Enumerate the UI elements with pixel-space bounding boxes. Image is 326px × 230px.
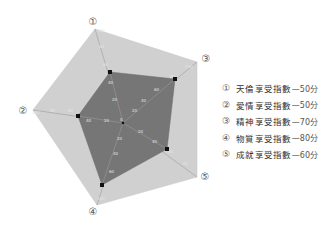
- legend-item: ④ 物質享受指數 —80分: [222, 130, 318, 147]
- legend: ① 天倫享受指數 —50分 ② 愛情享受指數 —50分 ③ 精神享受指數 —70…: [222, 80, 318, 163]
- legend-item: ⑤ 成就享受指數 —60分: [222, 146, 318, 163]
- svg-text:③: ③: [202, 53, 211, 64]
- svg-text:20: 20: [138, 129, 144, 134]
- svg-text:100: 100: [97, 28, 105, 33]
- legend-number: ③: [222, 116, 236, 126]
- svg-text:80: 80: [50, 108, 56, 113]
- svg-text:40: 40: [113, 151, 119, 156]
- svg-text:80: 80: [183, 161, 189, 166]
- legend-number: ⑤: [222, 149, 236, 159]
- legend-value: —80分: [292, 132, 318, 143]
- svg-text:⑤: ⑤: [201, 171, 210, 182]
- svg-text:40: 40: [108, 80, 114, 85]
- svg-text:20: 20: [132, 108, 138, 113]
- svg-text:60: 60: [109, 169, 115, 174]
- svg-text:②: ②: [19, 105, 28, 116]
- legend-label: 精神享受指數: [236, 115, 292, 127]
- legend-number: ①: [222, 83, 236, 93]
- svg-text:20: 20: [104, 118, 110, 123]
- svg-text:④: ④: [89, 206, 98, 217]
- svg-text:60: 60: [154, 87, 160, 92]
- legend-value: —70分: [292, 116, 318, 127]
- legend-value: —50分: [292, 99, 318, 110]
- legend-label: 成就享受指數: [236, 148, 292, 160]
- svg-text:40: 40: [141, 98, 147, 103]
- svg-text:①: ①: [89, 16, 98, 27]
- legend-label: 愛情享受指數: [236, 99, 292, 111]
- svg-text:40: 40: [86, 118, 92, 123]
- legend-label: 物質享受指數: [236, 132, 292, 144]
- svg-text:80: 80: [99, 44, 105, 49]
- legend-number: ④: [222, 133, 236, 143]
- legend-value: —50分: [292, 83, 318, 94]
- legend-label: 天倫享受指數: [236, 82, 292, 94]
- svg-text:20: 20: [112, 97, 118, 102]
- radar-chart: 1008060 4020 1008060 4020 80604020 10060…: [0, 0, 230, 230]
- svg-text:40: 40: [152, 139, 158, 144]
- legend-value: —60分: [292, 149, 318, 160]
- center-point: [122, 122, 125, 125]
- legend-item: ③ 精神享受指數 —70分: [222, 113, 318, 130]
- svg-text:60: 60: [103, 62, 109, 67]
- svg-text:20: 20: [117, 136, 123, 141]
- svg-text:100: 100: [97, 196, 105, 201]
- svg-text:60: 60: [68, 108, 74, 113]
- svg-text:100: 100: [32, 110, 40, 115]
- legend-item: ② 愛情享受指數 —50分: [222, 97, 318, 114]
- svg-text:100: 100: [185, 64, 193, 69]
- legend-number: ②: [222, 100, 236, 110]
- legend-item: ① 天倫享受指數 —50分: [222, 80, 318, 97]
